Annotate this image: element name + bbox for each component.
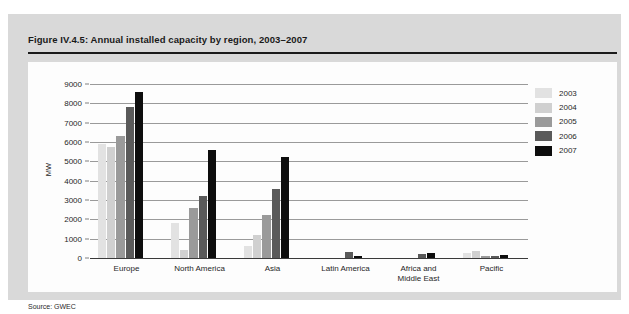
legend-swatch-icon	[535, 103, 552, 113]
legend-label: 2003	[559, 89, 577, 98]
legend-swatch-icon	[535, 131, 552, 141]
y-tick-label: 7000	[36, 118, 82, 127]
y-tick-label: 3000	[36, 196, 82, 205]
y-tick-mark	[85, 200, 89, 201]
y-tick-mark	[85, 238, 89, 239]
x-axis-label-line: Middle East	[368, 274, 469, 284]
x-axis-label: Pacific	[441, 264, 542, 274]
figure-root: Figure IV.4.5: Annual installed capacity…	[0, 0, 629, 314]
y-gridline	[90, 103, 528, 104]
bar	[472, 251, 480, 258]
bar	[107, 147, 115, 258]
bar	[126, 107, 134, 258]
y-tick-label: 8000	[36, 99, 82, 108]
legend-label: 2004	[559, 103, 577, 112]
y-tick-label: 9000	[36, 80, 82, 89]
bar	[253, 235, 261, 258]
x-axis-line	[90, 258, 528, 259]
bar	[180, 250, 188, 258]
legend-item-2004[interactable]: 2004	[535, 100, 607, 114]
y-tick-label: 1000	[36, 234, 82, 243]
y-tick-label: 2000	[36, 215, 82, 224]
bar	[491, 256, 499, 258]
bar	[345, 252, 353, 258]
y-gridline	[90, 161, 528, 162]
y-gridline	[90, 123, 528, 124]
chart-legend: 20032004200520062007	[535, 86, 607, 158]
bar	[481, 256, 489, 258]
y-tick-mark	[85, 180, 89, 181]
y-tick-label: 5000	[36, 157, 82, 166]
bar	[463, 253, 471, 258]
legend-item-2005[interactable]: 2005	[535, 115, 607, 129]
figure-title-bar: Figure IV.4.5: Annual installed capacity…	[28, 34, 617, 56]
y-gridline	[90, 181, 528, 182]
title-divider	[28, 52, 617, 54]
bar	[281, 157, 289, 258]
y-tick-label: 4000	[36, 176, 82, 185]
figure-panel: Figure IV.4.5: Annual installed capacity…	[8, 14, 621, 300]
source-caption: Source: GWEC	[28, 303, 76, 310]
bar	[427, 253, 435, 258]
bar	[262, 215, 270, 258]
legend-item-2006[interactable]: 2006	[535, 129, 607, 143]
bar	[418, 254, 426, 258]
y-tick-label: 0	[36, 254, 82, 263]
legend-swatch-icon	[535, 117, 552, 127]
y-tick-mark	[85, 161, 89, 162]
legend-item-2003[interactable]: 2003	[535, 86, 607, 100]
legend-item-2007[interactable]: 2007	[535, 144, 607, 158]
y-tick-mark	[85, 84, 89, 85]
bar	[244, 246, 252, 258]
legend-label: 2005	[559, 117, 577, 126]
y-gridline	[90, 142, 528, 143]
y-tick-mark	[85, 103, 89, 104]
bar	[98, 144, 106, 258]
bar	[354, 256, 362, 258]
y-tick-mark	[85, 219, 89, 220]
y-tick-label: 6000	[36, 138, 82, 147]
x-axis-label-line: Pacific	[441, 264, 542, 274]
y-tick-mark	[85, 258, 89, 259]
bar	[171, 223, 179, 258]
y-tick-mark	[85, 122, 89, 123]
y-gridline	[90, 219, 528, 220]
bar	[135, 92, 143, 258]
chart-plot-area: 20032004200520062007 MW01000200030004000…	[28, 62, 617, 292]
legend-swatch-icon	[535, 88, 552, 98]
legend-swatch-icon	[535, 146, 552, 156]
bar	[208, 150, 216, 258]
bar	[500, 255, 508, 258]
legend-label: 2006	[559, 132, 577, 141]
y-tick-mark	[85, 142, 89, 143]
y-gridline	[90, 84, 528, 85]
bar	[189, 208, 197, 258]
y-gridline	[90, 239, 528, 240]
page-title: Figure IV.4.5: Annual installed capacity…	[28, 34, 307, 45]
legend-label: 2007	[559, 146, 577, 155]
bar	[116, 136, 124, 258]
bar	[199, 196, 207, 258]
y-gridline	[90, 200, 528, 201]
bar	[272, 189, 280, 258]
